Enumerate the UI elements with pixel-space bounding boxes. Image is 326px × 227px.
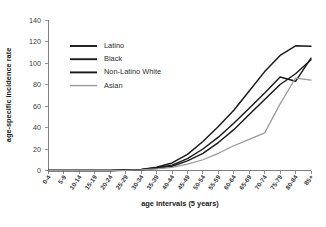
x-tick-label: 35-39 — [145, 173, 160, 191]
x-tick-label: 0-4 — [41, 173, 52, 185]
y-tick-label: 0 — [37, 166, 41, 175]
x-tick-label: 15-19 — [83, 173, 98, 191]
legend-label-asian: Asian — [104, 81, 123, 90]
chart-canvas: 020406080100120140 0-45-910-1415-1920-24… — [0, 0, 326, 227]
chart-legend: LatinoBlackNon-Latino WhiteAsian — [70, 41, 161, 90]
y-tick-label: 40 — [33, 123, 41, 132]
x-tick-label: 10-14 — [68, 173, 83, 191]
y-axis-tick-group: 020406080100120140 — [29, 16, 49, 176]
y-tick-label: 20 — [33, 145, 41, 154]
y-axis-title: age-specific incidence rate — [4, 48, 13, 142]
series-line-black — [49, 58, 312, 170]
y-tick-label: 60 — [33, 102, 41, 111]
y-tick-label: 140 — [29, 16, 41, 25]
x-tick-label: 85+ — [302, 173, 314, 186]
x-tick-label: 75-79 — [268, 173, 283, 191]
x-tick-label: 25-29 — [114, 173, 129, 191]
series-group — [49, 46, 312, 171]
x-tick-label: 55-59 — [207, 173, 222, 191]
y-tick-label: 100 — [29, 59, 41, 68]
y-tick-label: 120 — [29, 37, 41, 46]
x-axis-tick-group: 0-45-910-1415-1920-2425-2930-3435-3940-4… — [41, 171, 315, 191]
x-tick-label: 70-74 — [253, 173, 268, 191]
x-tick-label: 50-54 — [191, 173, 206, 191]
legend-label-non-latino-white: Non-Latino White — [104, 67, 161, 76]
x-tick-label: 30-34 — [129, 173, 144, 191]
x-tick-label: 80-84 — [284, 173, 299, 191]
x-tick-label: 5-9 — [56, 173, 67, 185]
x-tick-label: 20-24 — [99, 173, 114, 191]
x-tick-label: 45-49 — [176, 173, 191, 191]
legend-label-black: Black — [104, 54, 122, 63]
x-tick-label: 60-64 — [222, 173, 237, 191]
series-line-non-latino-white — [49, 60, 312, 171]
x-tick-label: 65-69 — [238, 173, 253, 191]
series-line-latino — [49, 46, 312, 171]
legend-label-latino: Latino — [104, 41, 124, 50]
x-axis-title: age intervals (5 years) — [141, 199, 219, 208]
x-tick-label: 40-44 — [160, 173, 175, 191]
y-tick-label: 80 — [33, 80, 41, 89]
line-chart: 020406080100120140 0-45-910-1415-1920-24… — [0, 0, 326, 227]
